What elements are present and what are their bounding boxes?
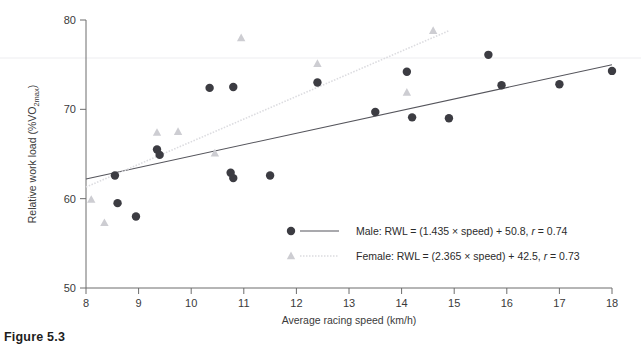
- x-tick-label: 10: [185, 297, 197, 309]
- data-point-male: [205, 84, 213, 92]
- data-point-female: [153, 128, 161, 136]
- x-tick-label: 15: [448, 297, 460, 309]
- x-axis-title: Average racing speed (km/h): [282, 314, 417, 326]
- data-point-male: [313, 78, 321, 86]
- y-tick-label: 70: [64, 103, 76, 115]
- scatter-plot: 5060708089101112131415161718 Average rac…: [0, 0, 641, 354]
- legend-label-male: Male: RWL = (1.435 × speed) + 50.8, r = …: [356, 225, 567, 237]
- data-point-male: [155, 151, 163, 159]
- data-point-male: [555, 80, 563, 88]
- regression-lines: [86, 31, 612, 187]
- data-point-male: [445, 114, 453, 122]
- regression-line-male: [86, 65, 612, 179]
- legend-marker-female: [287, 252, 295, 260]
- data-point-male: [113, 199, 121, 207]
- x-tick-label: 17: [553, 297, 565, 309]
- data-point-male: [484, 51, 492, 59]
- figure-caption: Figure 5.3: [4, 330, 65, 344]
- x-tick-label: 14: [395, 297, 407, 309]
- data-point-female: [100, 218, 108, 226]
- x-tick-label: 11: [238, 297, 249, 309]
- x-tick-label: 18: [606, 297, 618, 309]
- data-point-male: [497, 81, 505, 89]
- data-point-female: [237, 33, 245, 41]
- data-point-male: [132, 212, 140, 220]
- data-point-male: [111, 171, 119, 179]
- plot-legend: Male: RWL = (1.435 × speed) + 50.8, r = …: [287, 225, 580, 262]
- data-point-female: [403, 88, 411, 96]
- data-points: [87, 26, 616, 226]
- data-point-male: [266, 171, 274, 179]
- figure-container: 5060708089101112131415161718 Average rac…: [0, 0, 641, 354]
- x-tick-label: 12: [290, 297, 302, 309]
- x-tick-label: 16: [501, 297, 513, 309]
- regression-line-female: [86, 31, 449, 187]
- y-axis-title: Relative work load (%VO2max): [26, 85, 41, 224]
- legend-marker-male: [287, 227, 295, 235]
- axis-titles: Average racing speed (km/h)Relative work…: [26, 85, 416, 326]
- y-tick-label: 80: [64, 14, 76, 26]
- data-point-female: [429, 26, 437, 34]
- data-point-male: [408, 113, 416, 121]
- data-point-female: [174, 127, 182, 135]
- data-point-female: [87, 195, 95, 203]
- x-tick-label: 13: [343, 297, 355, 309]
- y-tick-label: 50: [64, 282, 76, 294]
- data-point-male: [229, 174, 237, 182]
- x-tick-label: 8: [83, 297, 89, 309]
- data-point-female: [313, 59, 321, 67]
- x-tick-label: 9: [136, 297, 142, 309]
- data-point-male: [229, 83, 237, 91]
- y-tick-label: 60: [64, 193, 76, 205]
- legend-label-female: Female: RWL = (2.365 × speed) + 42.5, r …: [356, 250, 580, 262]
- data-point-male: [403, 68, 411, 76]
- data-point-male: [371, 108, 379, 116]
- data-point-male: [608, 67, 616, 75]
